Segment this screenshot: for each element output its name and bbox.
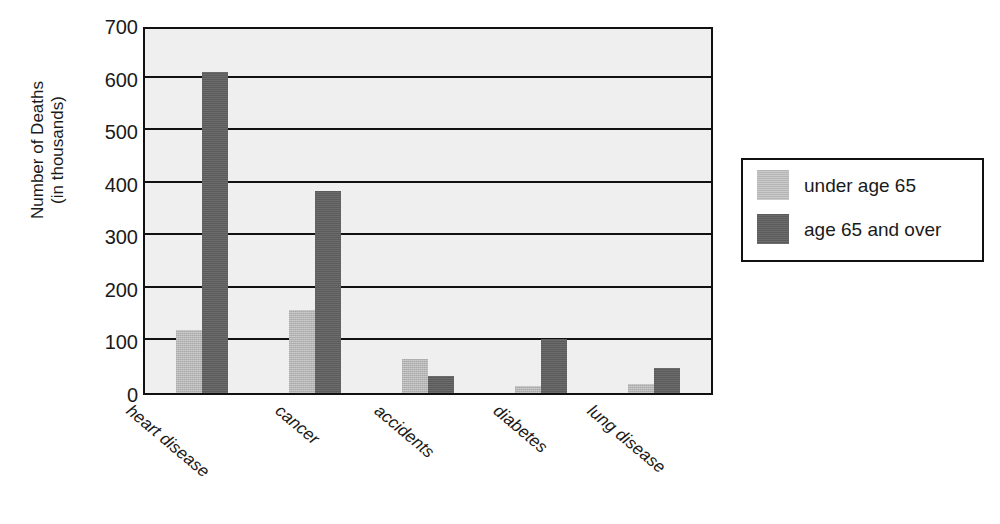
bar-group <box>485 29 598 393</box>
y-tick-label: 500 <box>105 122 138 142</box>
y-axis-tick-labels: 7006005004003002001000 <box>60 0 138 524</box>
bar <box>402 359 428 393</box>
legend-swatch-under <box>757 170 789 200</box>
bar <box>202 72 228 393</box>
bar-chart-figure: Number of Deaths (in thousands) 70060050… <box>0 0 1000 524</box>
bar <box>289 310 315 393</box>
bar <box>654 368 680 393</box>
legend-item: age 65 and over <box>757 214 982 244</box>
legend-item: under age 65 <box>757 170 982 200</box>
x-tick-label: lung disease <box>583 401 669 478</box>
bar-group <box>145 29 258 393</box>
bar <box>428 376 454 393</box>
bar-group <box>258 29 371 393</box>
y-tick-label: 400 <box>105 175 138 195</box>
legend: under age 65age 65 and over <box>741 158 984 262</box>
y-axis-title-line1: Number of Deaths <box>28 81 48 219</box>
bar-groups <box>145 29 711 393</box>
y-tick-label: 300 <box>105 227 138 247</box>
bar <box>315 191 341 393</box>
bar-group <box>371 29 484 393</box>
x-tick-label: accidents <box>370 401 438 462</box>
y-tick-label: 100 <box>105 332 138 352</box>
x-tick-label: cancer <box>271 401 323 449</box>
bar <box>515 386 541 393</box>
x-axis-tick-labels: heart diseasecanceraccidentsdiabeteslung… <box>143 395 713 524</box>
legend-label: age 65 and over <box>804 220 941 239</box>
plot-area <box>143 27 713 395</box>
bar <box>176 330 202 393</box>
legend-label: under age 65 <box>804 176 916 195</box>
bar <box>541 339 567 393</box>
y-tick-label: 600 <box>105 70 138 90</box>
bar <box>628 384 654 393</box>
y-tick-label: 200 <box>105 280 138 300</box>
y-tick-label: 700 <box>105 17 138 37</box>
x-tick-label: diabetes <box>489 401 551 458</box>
chart-title-cutoff <box>120 0 540 3</box>
legend-swatch-over <box>757 214 789 244</box>
bar-group <box>598 29 711 393</box>
